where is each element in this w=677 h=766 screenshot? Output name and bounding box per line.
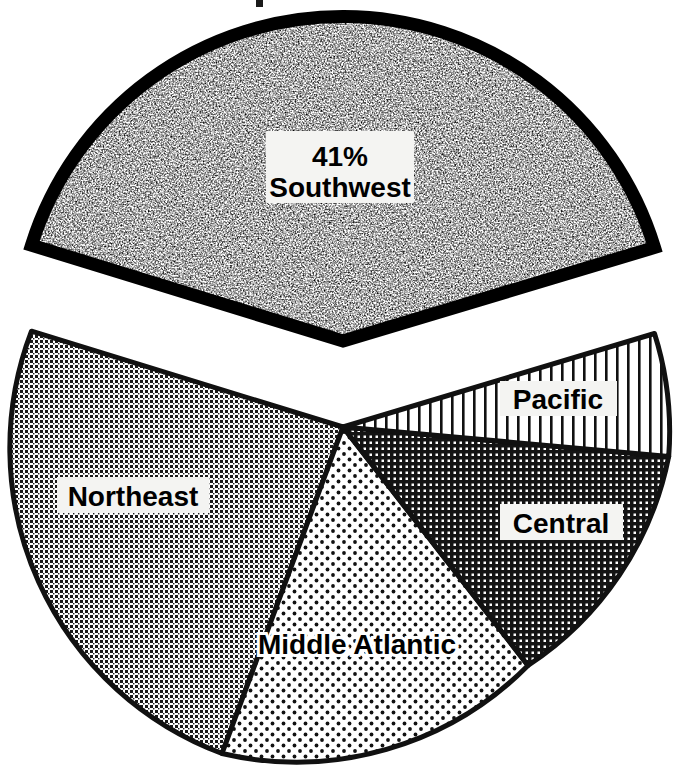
slice-label-southwest-percent: 41% <box>312 141 368 172</box>
slice-label-central: Central <box>500 504 623 540</box>
slice-label-pacific-name: Pacific <box>513 384 603 415</box>
slice-label-middle-atlantic-name: Middle Atlantic <box>258 629 456 660</box>
scan-artifact-mark <box>256 0 263 7</box>
slice-label-middle-atlantic: Middle Atlantic <box>258 629 456 660</box>
slice-label-southwest-name: Southwest <box>269 172 411 203</box>
slice-label-southwest: 41% Southwest <box>266 131 414 203</box>
slice-label-central-name: Central <box>513 508 609 539</box>
pie-chart-figure: 41% Southwest Pacific Central Middle Atl… <box>0 0 677 766</box>
slice-label-northeast-name: Northeast <box>68 481 199 512</box>
pie-chart-svg: 41% Southwest Pacific Central Middle Atl… <box>0 0 677 766</box>
slice-label-pacific: Pacific <box>500 381 617 416</box>
slice-label-northeast: Northeast <box>57 477 209 513</box>
